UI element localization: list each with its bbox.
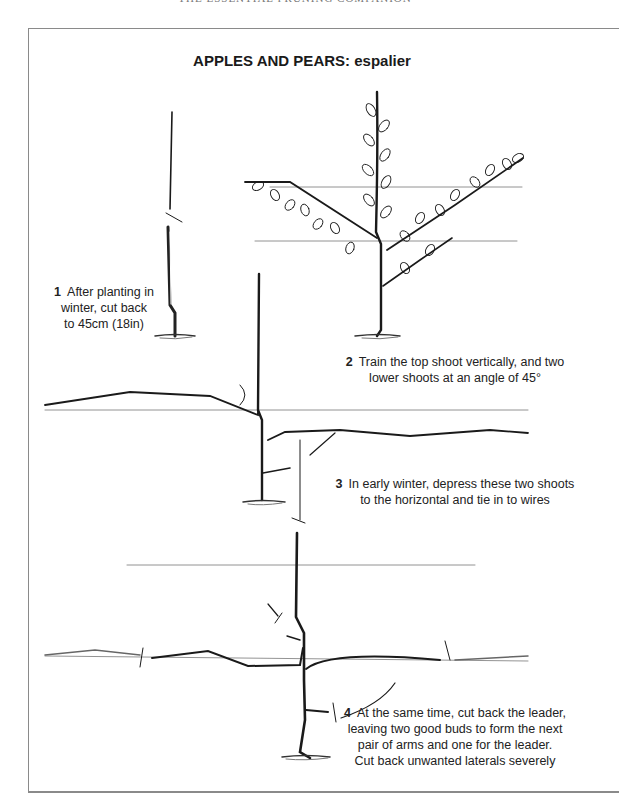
step-number: 4 xyxy=(344,706,351,720)
stage-2-illustration xyxy=(245,92,525,339)
step-2-caption: 2Train the top shoot vertically, and two… xyxy=(340,354,570,386)
step-4-caption: 4At the same time, cut back the leader, … xyxy=(330,705,580,769)
step-3-caption: 3In early winter, depress these two shoo… xyxy=(320,476,590,508)
step-number: 2 xyxy=(346,355,353,369)
step-number: 1 xyxy=(54,285,61,299)
step-number: 3 xyxy=(336,477,343,491)
step-1-caption: 1After planting in winter, cut back to 4… xyxy=(40,284,168,332)
